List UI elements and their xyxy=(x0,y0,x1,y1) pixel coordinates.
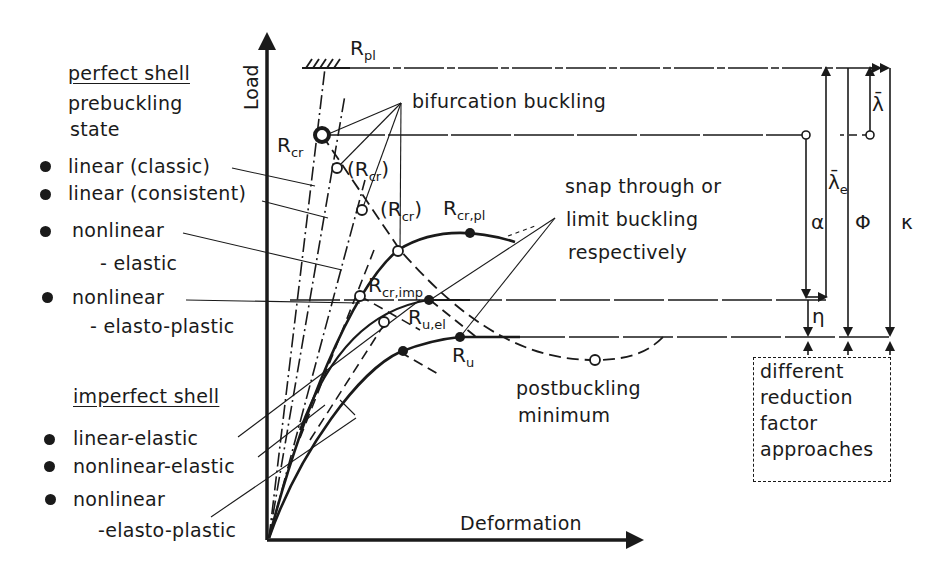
legend-elastic: - elastic xyxy=(100,252,177,274)
label-lambda-bar-e: λ̄e xyxy=(828,170,848,197)
box-line-2: reduction xyxy=(754,384,890,410)
y-axis-label: Load xyxy=(240,64,262,110)
legend-nonlinear-elastic: nonlinear-elastic xyxy=(73,455,235,477)
postbuckling-label-1: postbuckling xyxy=(516,377,641,399)
box-line-1: different xyxy=(754,358,890,384)
label-alpha: α xyxy=(811,210,824,234)
reduction-approaches-box: different reduction factor approaches xyxy=(753,357,891,482)
state-label: state xyxy=(70,118,120,140)
rpl-support-hatch xyxy=(302,59,350,68)
legend-nonlinear-1: nonlinear xyxy=(72,219,164,241)
label-lambda-bar: λ̄ xyxy=(872,92,884,116)
label-r-u-el: Ru,el xyxy=(408,305,446,332)
bullet xyxy=(40,226,51,237)
bullet xyxy=(42,292,53,303)
label-eta: η xyxy=(812,304,825,328)
legend-linear-elastic: linear-elastic xyxy=(73,427,198,449)
box-line-3: factor xyxy=(754,410,890,436)
legend-elasto-plastic-2: -elasto-plastic xyxy=(98,519,236,541)
bullet xyxy=(40,161,51,172)
legend-linear-consistent: linear (consistent) xyxy=(68,182,246,204)
bifurcation-label: bifurcation buckling xyxy=(412,90,606,112)
label-phi: Φ xyxy=(855,210,871,234)
label-r-cr-pl: Rcr,pl xyxy=(443,196,485,223)
curve-imperfect-elastoplastic xyxy=(269,337,520,538)
label-r-cr-paren-2: (Rcr) xyxy=(380,197,422,224)
snap-label-3: respectively xyxy=(568,241,687,263)
prebuckling-label: prebuckling xyxy=(68,92,183,114)
legend-nonlinear-2: nonlinear xyxy=(72,286,164,308)
label-r-u: Ru xyxy=(452,343,474,370)
snap-label-2: limit buckling xyxy=(566,208,698,230)
bullet xyxy=(40,189,51,200)
postbuckling-label-2: minimum xyxy=(518,404,610,426)
x-axis-label: Deformation xyxy=(460,512,582,534)
label-r-pl: Rpl xyxy=(350,36,376,63)
snap-label-1: snap through or xyxy=(565,175,721,197)
perfect-shell-heading: perfect shell xyxy=(68,62,190,84)
label-r-cr-imp: Rcr,imp xyxy=(368,273,423,300)
legend-elasto-plastic: - elasto-plastic xyxy=(90,315,235,337)
label-kappa: κ xyxy=(901,210,913,234)
legend-nonlinear-3: nonlinear xyxy=(73,488,165,510)
label-r-cr-paren-1: (Rcr) xyxy=(347,157,389,184)
box-line-4: approaches xyxy=(754,436,890,462)
legend-linear-classic: linear (classic) xyxy=(68,155,210,177)
bullet xyxy=(45,494,56,505)
bullet xyxy=(44,434,55,445)
bullet xyxy=(44,461,55,472)
imperfect-shell-heading: imperfect shell xyxy=(73,385,219,407)
label-r-cr: Rcr xyxy=(277,133,303,160)
